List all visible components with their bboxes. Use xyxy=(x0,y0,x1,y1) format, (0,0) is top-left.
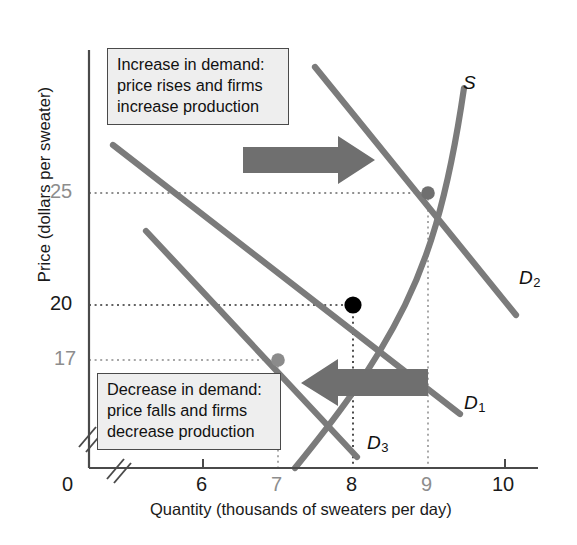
decrease-callout-line-1: Decrease in demand: xyxy=(107,379,272,400)
increase-callout-line-1: Increase in demand: xyxy=(117,54,280,75)
d3-label-subscript: 3 xyxy=(381,440,388,455)
equilibrium-dot-8-20 xyxy=(344,296,361,313)
d1-label-subscript: 1 xyxy=(478,400,485,415)
d2-label-text: D xyxy=(519,267,533,288)
decrease-callout-line-2: price falls and firms xyxy=(107,400,272,421)
x-tick-label-7: 7 xyxy=(271,473,282,496)
x-tick-label-8: 8 xyxy=(346,473,357,496)
d1-label-text: D xyxy=(464,392,478,413)
x-tick-label-10: 10 xyxy=(492,473,514,496)
decrease-in-demand-arrow xyxy=(301,359,428,406)
y-tick-label-25: 25 xyxy=(50,180,72,203)
demand-curve-d2-label: D2 xyxy=(519,267,540,290)
y-tick-label-20: 20 xyxy=(50,292,72,315)
supply-demand-figure: Price (dollars per sweater) Quantity (th… xyxy=(0,0,577,545)
increase-in-demand-callout: Increase in demand: price rises and firm… xyxy=(107,48,289,125)
x-tick-label-6: 6 xyxy=(196,473,207,496)
increase-in-demand-arrow xyxy=(243,136,375,184)
d2-label-subscript: 2 xyxy=(533,275,540,290)
x-tick-marks xyxy=(203,459,505,468)
demand-curve-d3-label: D3 xyxy=(367,432,388,455)
d3-label-text: D xyxy=(367,432,381,453)
decrease-in-demand-callout: Decrease in demand: price falls and firm… xyxy=(97,373,281,450)
increase-callout-line-3: increase production xyxy=(117,96,280,117)
equilibrium-dot-7-17 xyxy=(271,353,285,367)
increase-callout-line-2: price rises and firms xyxy=(117,75,280,96)
y-tick-label-17: 17 xyxy=(54,347,76,370)
decrease-callout-line-3: decrease production xyxy=(107,421,272,442)
equilibrium-dot-9-25 xyxy=(421,186,435,200)
supply-curve-label: S xyxy=(463,72,476,94)
x-tick-label-9: 9 xyxy=(421,473,432,496)
x-axis-title: Quantity (thousands of sweaters per day) xyxy=(150,500,570,519)
supply-label-text: S xyxy=(463,72,476,93)
origin-label: 0 xyxy=(62,473,73,496)
demand-curve-d1-label: D1 xyxy=(464,392,485,415)
